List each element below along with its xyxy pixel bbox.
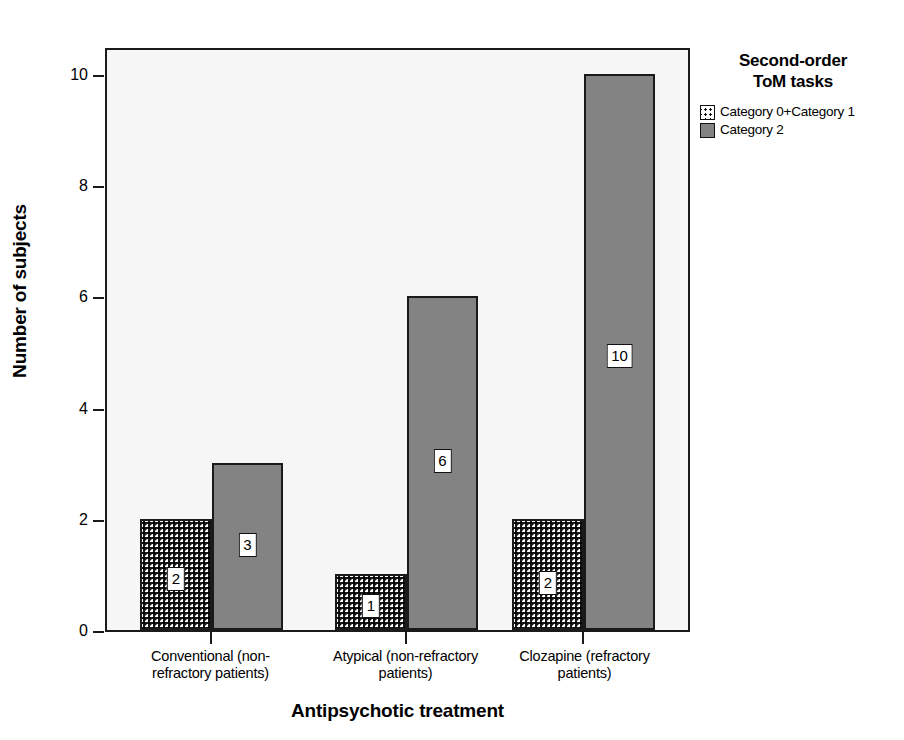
legend-item-category-0-1[interactable]: Category 0+Category 1 (700, 104, 900, 120)
y-tick-label-8: 8 (40, 176, 88, 196)
x-label-line-2: patients) (558, 665, 612, 681)
y-tick-label-6: 6 (40, 287, 88, 307)
legend-item-label: Category 0+Category 1 (720, 104, 855, 120)
bar-conventional-category-2[interactable]: 3 (212, 463, 283, 630)
legend-item-label: Category 2 (720, 122, 784, 138)
bar-value-label: 1 (362, 594, 380, 618)
legend-title-line-2: ToM tasks (753, 72, 833, 91)
bar-value-label: 3 (238, 533, 256, 557)
x-label-line-1: Clozapine (refractory (519, 648, 649, 664)
x-label-line-2: refractory patients) (152, 665, 269, 681)
y-tick-label-10: 10 (40, 65, 88, 85)
legend-title-line-1: Second-order (739, 51, 847, 70)
y-tick-mark-2 (93, 520, 104, 522)
x-axis-title: Antipsychotic treatment (105, 700, 690, 722)
bar-clozapine-category-2[interactable]: 10 (584, 74, 655, 630)
bar-value-label: 6 (433, 449, 451, 473)
legend-item-category-2[interactable]: Category 2 (700, 122, 900, 138)
x-axis-tick-mark-clozapine (582, 632, 584, 644)
x-label-line-1: Conventional (non- (151, 648, 270, 664)
y-tick-label-2: 2 (40, 510, 88, 530)
bar-clozapine-category-0-1[interactable]: 2 (512, 519, 584, 630)
bar-conventional-category-0-1[interactable]: 2 (140, 519, 212, 630)
plot-area: 2 3 1 6 2 10 (105, 48, 690, 632)
y-tick-mark-6 (93, 297, 104, 299)
y-tick-label-0: 0 (40, 621, 88, 641)
y-axis-title: Number of subjects (9, 121, 31, 461)
x-axis-tick-mark-conventional (210, 632, 212, 644)
y-tick-label-4: 4 (40, 399, 88, 419)
y-tick-mark-4 (93, 409, 104, 411)
x-label-line-2: patients) (379, 665, 433, 681)
x-axis-tick-mark-atypical (405, 632, 407, 644)
bar-atypical-category-2[interactable]: 6 (407, 296, 478, 630)
bar-chart-figure: Number of subjects 10 8 6 4 2 0 2 3 1 (0, 0, 904, 740)
x-label-line-1: Atypical (non-refractory (333, 648, 478, 664)
legend: Second-order ToM tasks Category 0+Catego… (700, 50, 900, 140)
legend-swatch-gray-icon (700, 123, 715, 138)
bar-atypical-category-0-1[interactable]: 1 (335, 574, 407, 630)
bar-value-label: 2 (539, 571, 557, 595)
x-axis-label-conventional: Conventional (non- refractory patients) (103, 648, 318, 682)
x-axis-label-clozapine: Clozapine (refractory patients) (477, 648, 692, 682)
y-tick-mark-10 (93, 75, 104, 77)
y-tick-mark-8 (93, 186, 104, 188)
legend-swatch-dotted-icon (700, 105, 715, 120)
legend-title: Second-order ToM tasks (700, 50, 900, 92)
y-tick-mark-0 (93, 631, 104, 633)
bar-value-label: 10 (606, 344, 633, 368)
bar-value-label: 2 (167, 567, 185, 591)
